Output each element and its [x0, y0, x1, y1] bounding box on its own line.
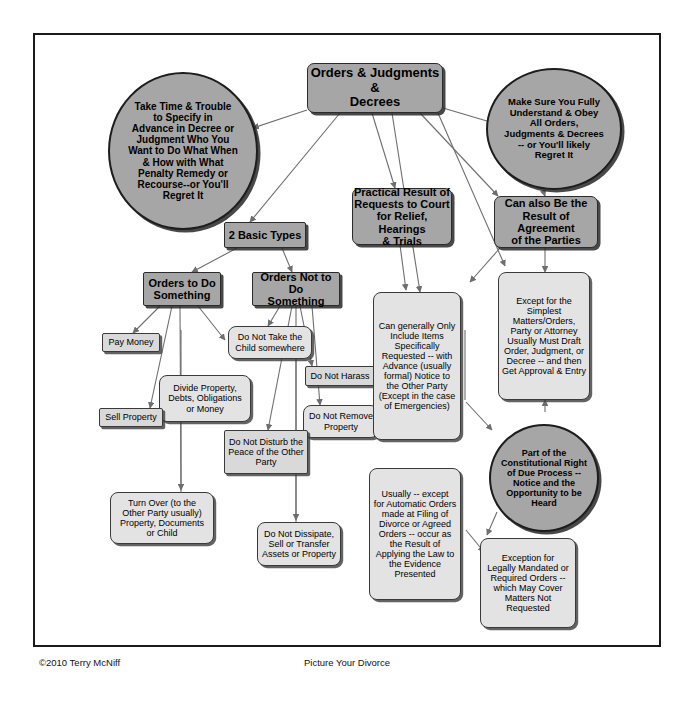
- right-ellipse-understand-and-obey: Make Sure You Fully Understand & Obey Al…: [486, 68, 622, 190]
- footer-bar: ©2010 Terry McNiff Picture Your Divorce: [33, 645, 661, 680]
- left-ellipse-specify-in-advance: Take Time & Trouble to Specify in Advanc…: [108, 72, 258, 230]
- can-generally-only-include-box: Can generally Only Include Items Specifi…: [373, 292, 461, 440]
- pay-money-box: Pay Money: [102, 333, 160, 352]
- do-not-take-child-box: Do Not Take the Child somewhere: [228, 326, 312, 359]
- do-not-harass-box: Do Not Harass: [305, 366, 375, 386]
- divide-property-box: Divide Property, Debts, Obligations or M…: [159, 375, 251, 422]
- footer-title: Picture Your Divorce: [33, 657, 661, 668]
- due-process-circle: Part of the Constitutional Right of Due …: [489, 424, 599, 532]
- turn-over-box: Turn Over (to the Other Party usually) P…: [110, 492, 214, 544]
- orders-to-do-box: Orders to Do Something: [143, 272, 221, 306]
- do-not-remove-property-box: Do Not Remove Property: [303, 405, 379, 438]
- diagram-page: Orders & Judgments & Decrees Take Time &…: [0, 0, 687, 708]
- agreement-of-parties-box: Can also Be the Result of Agreement of t…: [494, 196, 598, 248]
- do-not-dissipate-box: Do Not Dissipate, Sell or Transfer Asset…: [257, 522, 341, 566]
- two-basic-types-box: 2 Basic Types: [224, 222, 306, 248]
- sell-property-box: Sell Property: [99, 408, 163, 427]
- exception-legally-mandated-box: Exception for Legally Mandated or Requir…: [480, 538, 576, 628]
- title-box: Orders & Judgments & Decrees: [307, 63, 443, 113]
- except-simplest-matters-box: Except for the Simplest Matters/Orders, …: [498, 272, 590, 400]
- usually-except-automatic-orders-box: Usually -- except for Automatic Orders m…: [369, 468, 461, 600]
- orders-not-to-do-box: Orders Not to Do Something: [252, 272, 340, 306]
- practical-result-box: Practical Result of Requests to Court fo…: [352, 188, 452, 245]
- do-not-disturb-peace-box: Do Not Disturb the Peace of the Other Pa…: [224, 430, 308, 474]
